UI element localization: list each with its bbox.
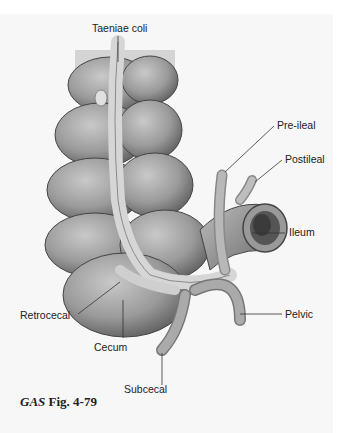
- label-pelvic: Pelvic: [285, 308, 313, 320]
- ileum: [200, 204, 287, 270]
- label-cecum: Cecum: [94, 341, 127, 353]
- figure-caption: GAS Fig. 4-79: [20, 394, 97, 410]
- label-pre-ileal: Pre-ileal: [277, 119, 316, 131]
- cecum: [63, 253, 187, 337]
- label-retrocecal: Retrocecal: [20, 309, 70, 321]
- label-postileal: Postileal: [285, 153, 325, 165]
- cecum-appendix-illustration: [0, 0, 343, 433]
- label-ileum: Ileum: [289, 226, 315, 238]
- label-subcecal: Subcecal: [124, 383, 167, 395]
- label-taeniae-coli: Taeniae coli: [92, 22, 147, 34]
- caption-figure-number: Fig. 4-79: [49, 394, 97, 409]
- caption-source: GAS: [20, 394, 45, 409]
